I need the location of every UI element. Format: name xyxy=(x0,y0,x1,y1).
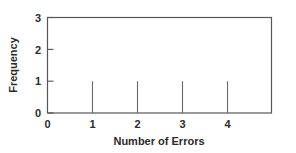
y-tick-label-3: 3 xyxy=(35,12,41,24)
x-tick-label-0: 0 xyxy=(44,118,50,130)
chart-canvas: 0 1 2 3 0 1 2 3 4 Number of Errors Frequ… xyxy=(0,0,296,153)
y-tick-label-2: 2 xyxy=(35,44,41,56)
y-tick-label-0: 0 xyxy=(35,107,41,119)
frequency-spike-chart: 0 1 2 3 0 1 2 3 4 Number of Errors Frequ… xyxy=(0,0,296,153)
plot-frame xyxy=(48,18,272,114)
x-tick-label-1: 1 xyxy=(89,118,95,130)
x-axis-title: Number of Errors xyxy=(113,135,204,147)
x-tick-label-2: 2 xyxy=(134,118,140,130)
x-tick-label-4: 4 xyxy=(224,118,231,130)
x-tick-label-3: 3 xyxy=(179,118,185,130)
y-tick-label-1: 1 xyxy=(35,75,41,87)
y-axis-title: Frequency xyxy=(7,36,19,93)
